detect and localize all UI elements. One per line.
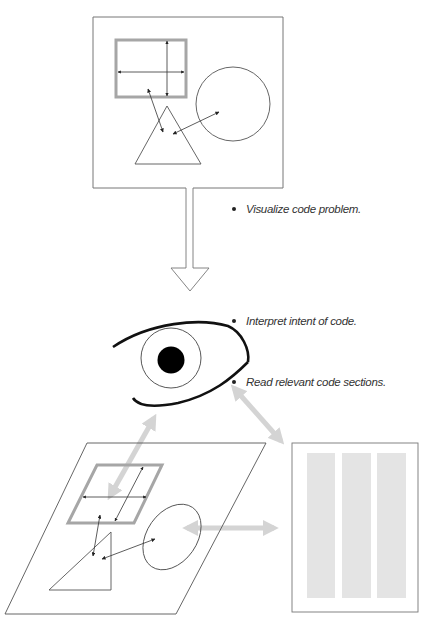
data-structure-rect xyxy=(116,40,186,97)
skewed-rect xyxy=(68,465,162,523)
code-column-2 xyxy=(342,453,371,598)
code-column-3 xyxy=(377,453,406,598)
mental-model-frame xyxy=(93,17,283,188)
eye-pupil xyxy=(158,347,185,374)
code-column-1 xyxy=(307,453,335,598)
label-text: Interpret intent of code. xyxy=(246,315,357,327)
skewed-triangle xyxy=(49,532,111,590)
label-interpret: Interpret intent of code. xyxy=(232,315,357,327)
label-text: Visualize code problem. xyxy=(246,203,361,215)
down-arrow xyxy=(171,188,209,291)
code-document xyxy=(292,443,418,612)
bullet-icon xyxy=(232,207,236,211)
triangle-shape xyxy=(135,106,201,164)
eye xyxy=(113,322,248,405)
bullet-icon xyxy=(232,319,236,323)
label-text: Read relevant code sections. xyxy=(246,376,386,388)
bullet-icon xyxy=(232,380,236,384)
label-read: Read relevant code sections. xyxy=(232,376,386,388)
circle-shape xyxy=(196,67,270,141)
diagram-canvas xyxy=(0,0,435,624)
gray-arrows xyxy=(110,388,281,528)
label-visualize: Visualize code problem. xyxy=(232,203,361,215)
